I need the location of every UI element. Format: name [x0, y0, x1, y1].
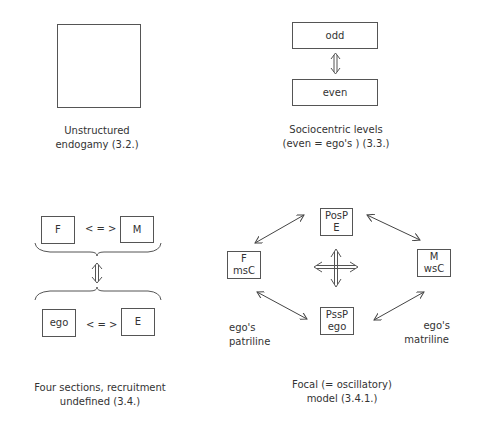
bottom-relation: < = > [86, 318, 118, 332]
four-sections-caption-line2: undefined (3.4.) [60, 395, 140, 409]
matriline-label-line1: ego's [423, 319, 450, 333]
e-box: E [121, 308, 155, 336]
odd-label: odd [326, 30, 345, 42]
lower-brace-icon [35, 287, 161, 300]
unstructured-caption-line2: endogamy (3.2.) [55, 138, 138, 152]
pssp-ego-box: PssP ego [320, 307, 354, 335]
even-label: even [323, 87, 348, 99]
wsc-label: wsC [424, 263, 444, 275]
m-label: M [430, 251, 439, 263]
posp-label: PosP [325, 210, 348, 222]
e-label: E [135, 316, 141, 328]
cross-double-arrow-icon [314, 249, 358, 287]
focal-caption-line1: Focal (= oscillatory) [292, 378, 392, 392]
posp-e-box: PosP E [320, 208, 353, 236]
m-label: M [133, 224, 142, 236]
four-sections-caption-line1: Four sections, recruitment [34, 381, 166, 395]
ego-box: ego [42, 309, 76, 337]
m-box: M [120, 216, 154, 243]
matriline-label-line2: matriline [404, 333, 449, 347]
f-msc-box: F msC [227, 251, 261, 279]
four-sections-double-arrow-icon [92, 263, 102, 283]
patriline-label-line1: ego's [229, 321, 256, 335]
sociocentric-caption-line2: (even = ego's ) (3.3.) [283, 137, 390, 151]
m-wsc-box: M wsC [417, 249, 451, 277]
odd-box: odd [292, 22, 378, 49]
f-label: F [241, 253, 247, 265]
sociocentric-caption-line1: Sociocentric levels [289, 123, 382, 137]
sociocentric-double-arrow-icon [331, 53, 340, 74]
pssp-label: PssP [326, 309, 348, 321]
top-relation: < = > [85, 222, 117, 236]
unstructured-square [57, 24, 141, 108]
e-label: E [333, 222, 339, 234]
msc-label: msC [233, 265, 255, 277]
even-box: even [292, 79, 378, 106]
focal-caption-line2: model (3.4.1.) [307, 392, 378, 406]
f-box: F [41, 216, 75, 244]
unstructured-caption-line1: Unstructured [64, 124, 129, 138]
f-label: F [55, 224, 61, 236]
ego-label: ego [50, 317, 69, 329]
patriline-label-line2: patriline [229, 335, 270, 349]
upper-brace-icon [35, 243, 161, 256]
ego-label: ego [328, 321, 347, 333]
